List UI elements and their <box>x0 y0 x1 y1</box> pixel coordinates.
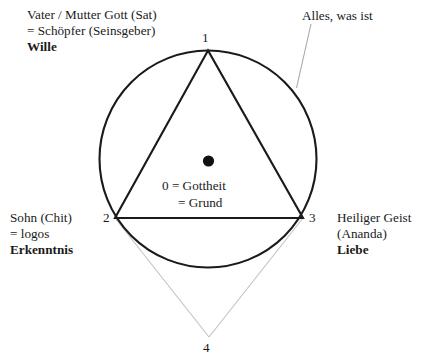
descender-line-right <box>209 218 303 337</box>
leader-line-all-that-is <box>297 24 312 88</box>
label-son-line1: Sohn (Chit) <box>10 210 73 226</box>
label-spirit-line2: (Ananda) <box>337 226 411 242</box>
descender-line-left <box>115 218 209 337</box>
vertex-label-1: 1 <box>202 31 209 45</box>
center-dot <box>203 155 214 166</box>
label-father-line3: Wille <box>27 39 157 55</box>
label-son-line3: Erkenntnis <box>10 242 73 258</box>
label-all-that-is: Alles, was ist <box>302 8 373 24</box>
vertex-label-2: 2 <box>103 211 110 225</box>
label-holy-spirit: Heiliger Geist (Ananda) Liebe <box>337 210 411 259</box>
vertex-label-4: 4 <box>203 341 210 355</box>
label-son: Sohn (Chit) = logos Erkenntnis <box>10 210 73 259</box>
center-text-line2: = Grund <box>160 195 256 212</box>
label-all-that-is-text: Alles, was ist <box>302 8 373 24</box>
diagram-root: Vater / Mutter Gott (Sat) = Schöpfer (Se… <box>0 0 426 364</box>
label-father-line1: Vater / Mutter Gott (Sat) <box>27 7 157 23</box>
center-text-godhead: 0 = Gottheit = Grund <box>160 178 256 211</box>
center-text-line1: 0 = Gottheit <box>160 178 256 195</box>
label-spirit-line1: Heiliger Geist <box>337 210 411 226</box>
label-father-god: Vater / Mutter Gott (Sat) = Schöpfer (Se… <box>27 7 157 56</box>
label-spirit-line3: Liebe <box>337 242 411 258</box>
label-son-line2: = logos <box>10 226 73 242</box>
label-father-line2: = Schöpfer (Seinsgeber) <box>27 23 157 39</box>
vertex-label-3: 3 <box>309 211 316 225</box>
